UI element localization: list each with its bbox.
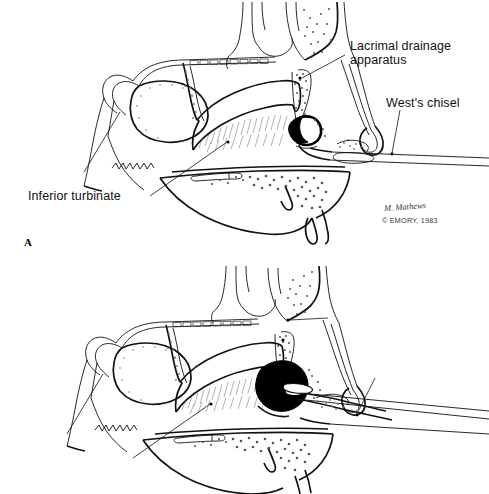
label-lacrimal-drainage-apparatus-a: Lacrimal drainage apparatus: [350, 40, 488, 67]
panel-marker-a: A: [24, 236, 32, 248]
bottom-caption-fragment: [8, 486, 478, 494]
label-inferior-turbinate-a: Inferior turbinate: [28, 190, 158, 204]
copyright-notice-a: © EMORY, 1983: [382, 216, 438, 225]
panel-b-illustration: [0, 248, 489, 494]
label-wests-chisel-a: West's chisel: [386, 97, 486, 111]
panel-a: Lacrimal drainage apparatus West's chise…: [0, 0, 489, 248]
panel-b: Lacrimal drainage apparatus Kerrison-Cos…: [0, 248, 489, 494]
